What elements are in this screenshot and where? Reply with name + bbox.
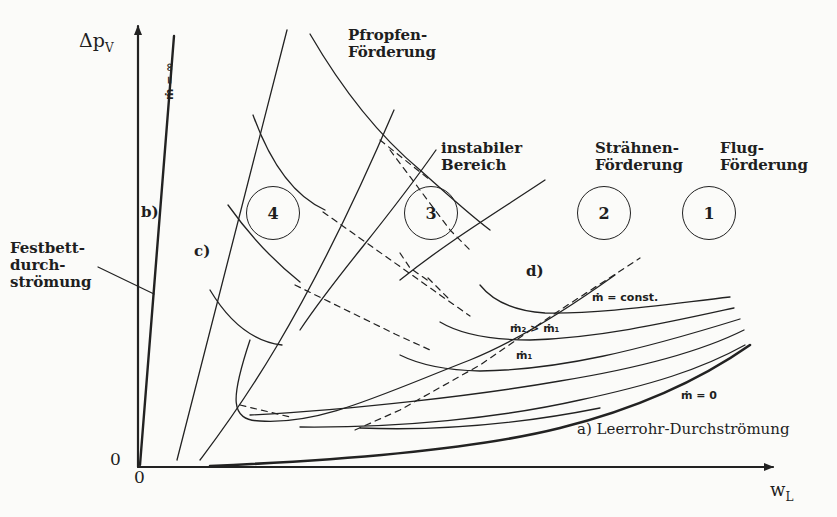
curve-m-zero — [210, 345, 750, 466]
curve-label-c: c) — [194, 243, 210, 260]
conveying-state-diagram: ΔpV wL 0 0 Pfropfen-Förderung instabiler… — [0, 0, 837, 517]
region-label-plug: Pfropfen-Förderung — [348, 27, 436, 61]
region-label-strand: Strähnen-Förderung — [595, 140, 683, 174]
dashed-boundary-4 — [240, 405, 290, 417]
region-label-flight: Flug-Förderung — [720, 140, 808, 174]
curve-m-infinity — [140, 36, 174, 465]
x-origin-label: 0 — [134, 468, 145, 487]
label-m-const: ṁ = const. — [592, 292, 658, 304]
curve-label-d: d) — [526, 263, 544, 280]
region-circle-3: 3 — [404, 186, 458, 240]
dashed-boundary-3 — [295, 285, 430, 350]
y-axis-label: ΔpV — [79, 30, 114, 55]
label-m1: ṁ₁ — [516, 350, 532, 362]
y-origin-label: 0 — [110, 450, 121, 469]
label-m2-gt-m1: ṁ₂ > ṁ₁ — [510, 323, 559, 335]
region-label-unstable: instabilerBereich — [441, 140, 522, 174]
curve-label-a: a) Leerrohr-Durchströmung — [577, 421, 790, 438]
region-circle-4: 4 — [246, 186, 300, 240]
x-axis-label: wL — [770, 480, 793, 504]
curve-m1 — [400, 319, 740, 371]
curve-m2 — [440, 308, 734, 340]
region-circle-1: 1 — [682, 186, 736, 240]
dashed-boundary-6 — [355, 258, 640, 430]
curve-plug-boundary — [310, 34, 490, 230]
curve-label-b: b) — [141, 204, 159, 221]
label-m-infinity: ṁ = ∞ — [164, 62, 176, 100]
label-m-zero: ṁ = 0 — [681, 390, 717, 402]
festbett-pointer — [98, 267, 154, 294]
dashed-boundary-2 — [380, 140, 430, 180]
region-circle-2: 2 — [577, 186, 631, 240]
diagram-lines — [0, 0, 837, 517]
curve-d — [200, 110, 394, 460]
festbett-label: Festbett-durch-strömung — [10, 240, 91, 290]
